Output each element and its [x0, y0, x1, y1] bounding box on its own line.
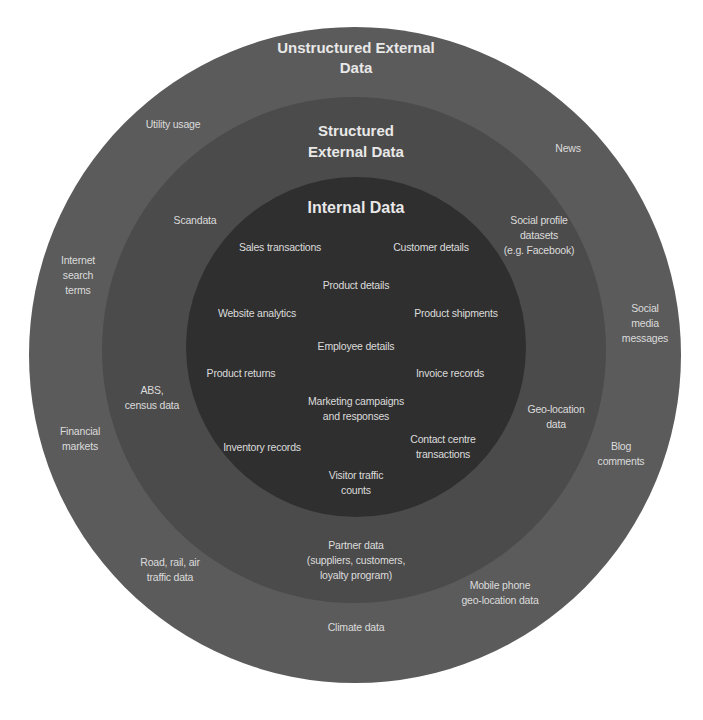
outer-item-utility-usage: Utility usage — [146, 117, 201, 132]
outer-item-mobile-phone-geo-location: Mobile phone geo-location data — [461, 578, 538, 608]
outer-item-social-media-messages: Social media messages — [622, 301, 668, 346]
inner-item-website-analytics: Website analytics — [218, 306, 296, 321]
inner-circle-title: Internal Data — [308, 198, 405, 218]
outer-ring-title: Unstructured External Data — [277, 38, 435, 78]
outer-item-blog-comments: Blog comments — [598, 439, 645, 469]
outer-item-financial-markets: Financial markets — [60, 424, 100, 454]
outer-item-road-rail-air-traffic: Road, rail, air traffic data — [140, 555, 199, 585]
outer-item-internet-search-terms: Internet search terms — [61, 253, 95, 298]
middle-item-scandata: Scandata — [174, 213, 217, 228]
inner-item-product-details: Product details — [323, 278, 389, 293]
inner-item-visitor-traffic-counts: Visitor traffic counts — [329, 468, 383, 498]
inner-item-inventory-records: Inventory records — [223, 440, 301, 455]
middle-item-social-profile-datasets: Social profile datasets (e.g. Facebook) — [504, 213, 575, 258]
inner-item-contact-centre-transactions: Contact centre transactions — [410, 432, 476, 462]
inner-item-product-returns: Product returns — [207, 366, 276, 381]
inner-item-marketing-campaigns: Marketing campaigns and responses — [308, 394, 404, 424]
middle-ring-title: Structured External Data — [308, 120, 404, 162]
middle-item-abs-census-data: ABS, census data — [125, 383, 179, 413]
outer-item-climate-data: Climate data — [328, 620, 385, 635]
inner-item-employee-details: Employee details — [318, 339, 395, 354]
middle-item-geo-location-data: Geo-location data — [527, 402, 584, 432]
inner-item-product-shipments: Product shipments — [414, 306, 498, 321]
middle-item-partner-data: Partner data (suppliers, customers, loya… — [307, 538, 405, 583]
outer-item-news: News — [555, 141, 580, 156]
inner-item-invoice-records: Invoice records — [416, 366, 484, 381]
inner-item-customer-details: Customer details — [393, 240, 469, 255]
inner-item-sales-transactions: Sales transactions — [239, 240, 321, 255]
